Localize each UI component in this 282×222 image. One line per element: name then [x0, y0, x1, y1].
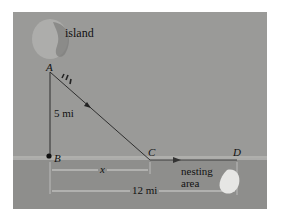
bird-icons: [62, 74, 71, 84]
point-b-dot: [46, 153, 51, 158]
island-shape: [32, 19, 69, 59]
point-c-label: C: [148, 147, 155, 158]
distance-bd-label: 12 mi: [130, 185, 159, 196]
distance-bc-label: x: [98, 164, 107, 175]
arrowhead-cd: [173, 157, 181, 163]
point-d-label: D: [233, 147, 241, 158]
distance-ab-label: 5 mi: [54, 108, 74, 119]
point-a-label: A: [46, 62, 53, 73]
nesting-area-shape: [220, 170, 240, 194]
island-label: island: [65, 27, 94, 39]
point-b-label: B: [54, 153, 61, 164]
diagram-panel: island A 5 mi B C D x 12 mi nesting area: [13, 12, 267, 209]
nesting-label-line1: nesting: [181, 166, 213, 177]
nesting-label-line2: area: [181, 178, 199, 189]
diagram-drawing: [13, 12, 267, 209]
